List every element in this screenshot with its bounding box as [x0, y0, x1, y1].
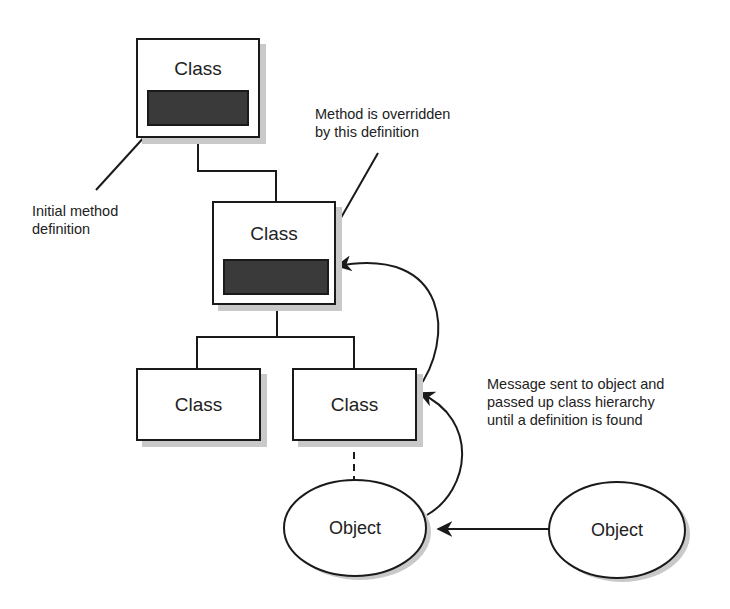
- class-box-bottom-right: Class: [292, 368, 417, 441]
- class-label: Class: [138, 394, 259, 416]
- lookup-arrow-object-to-class: [420, 393, 462, 515]
- annotation-message-lookup: Message sent to object and passed up cla…: [487, 375, 664, 429]
- annotation-line: until a definition is found: [487, 411, 664, 429]
- class-box-middle: Class: [212, 201, 336, 305]
- connector-top-to-middle: [198, 138, 276, 201]
- method-block-override: [223, 259, 329, 295]
- connector-middle-to-children: [197, 337, 354, 368]
- annotation-line: by this definition: [315, 123, 450, 141]
- annotation-line: Initial method: [32, 202, 118, 220]
- annotation-line: definition: [32, 220, 118, 238]
- method-block-initial: [147, 90, 249, 126]
- class-label: Class: [214, 223, 334, 245]
- annotation-line: passed up class hierarchy: [487, 393, 664, 411]
- annotation-line: Message sent to object and: [487, 375, 664, 393]
- annotation-line: Method is overridden: [315, 105, 450, 123]
- annotation-initial-definition: Initial method definition: [32, 202, 118, 238]
- class-label: Class: [294, 394, 415, 416]
- class-box-bottom-left: Class: [136, 368, 261, 441]
- class-box-top: Class: [136, 38, 260, 138]
- annotation-override: Method is overridden by this definition: [315, 105, 450, 141]
- class-label: Class: [138, 58, 258, 80]
- object-label-sender: Object: [549, 520, 685, 541]
- object-label-instance: Object: [284, 518, 426, 539]
